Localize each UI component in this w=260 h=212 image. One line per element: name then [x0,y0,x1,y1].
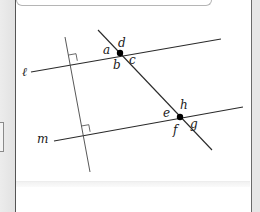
label-angle-b: b [113,58,121,72]
perpendicular-line [65,37,90,172]
line-l [31,39,221,72]
label-angle-h: h [180,98,188,112]
label-angle-f: f [172,123,180,137]
label-angle-c: c [129,53,136,67]
intersection-point-upper [117,50,123,56]
label-angle-e: e [163,106,170,120]
label-line-m: m [37,132,48,146]
transversal-line [98,30,212,150]
right-angle-marker-l [69,54,78,61]
label-angle-d: d [118,36,126,50]
line-m [54,107,243,141]
label-angle-g: g [190,117,198,131]
geometry-diagram: ℓ m a d b c e h f g [0,0,260,212]
label-line-l: ℓ [22,65,27,79]
intersection-point-lower [177,114,183,120]
label-angle-a: a [103,43,110,57]
